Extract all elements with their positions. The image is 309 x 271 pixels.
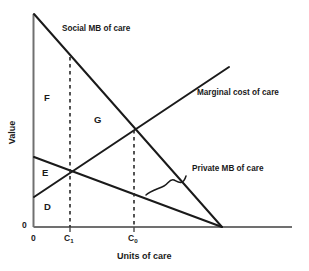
private-mb-label: Private MB of care: [192, 165, 263, 173]
x-tick-c1: C1: [64, 234, 74, 243]
region-d-label: D: [44, 202, 51, 212]
social-mb-label: Social MB of care: [62, 25, 130, 33]
economics-diagram: Social MB of care Marginal cost of care …: [0, 0, 309, 271]
y-origin-label: 0: [22, 221, 27, 230]
x-origin-label: 0: [31, 234, 36, 243]
social-mb-line: [34, 14, 222, 227]
marginal-cost-label: Marginal cost of care: [197, 89, 279, 97]
x-tick-c0-subscript: 0: [134, 237, 137, 244]
region-g-label: G: [94, 115, 101, 125]
plot-area: [0, 0, 309, 271]
region-f-label: F: [44, 93, 50, 103]
marginal-cost-line: [34, 67, 229, 197]
x-tick-c0: C0: [128, 234, 138, 243]
x-axis-title: Units of care: [117, 252, 172, 261]
x-tick-c1-subscript: 1: [70, 237, 73, 244]
y-axis-title: Value: [8, 108, 17, 158]
region-e-label: E: [42, 168, 48, 178]
